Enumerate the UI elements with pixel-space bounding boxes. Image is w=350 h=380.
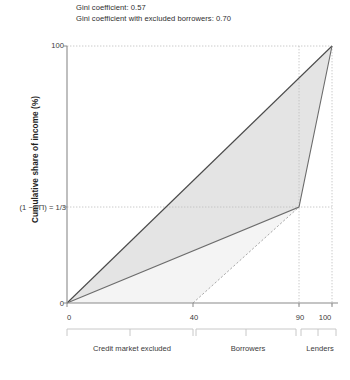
lorenz-curve-figure: Gini coefficient: 0.57 Gini coefficient … (0, 0, 350, 380)
plot-canvas (0, 0, 350, 380)
bracket-lenders (301, 329, 336, 336)
